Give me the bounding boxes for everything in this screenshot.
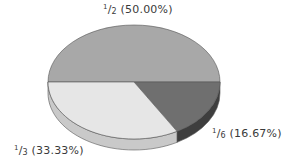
- pie-top-faces: [48, 25, 220, 139]
- label-sixth: 1/6 (16.67%): [212, 127, 282, 140]
- pie-chart: [0, 0, 288, 168]
- label-third: 1/3 (33.33%): [14, 144, 84, 157]
- pie-slice-1-2: [48, 25, 220, 82]
- label-half: 1/2 (50.00%): [103, 3, 173, 16]
